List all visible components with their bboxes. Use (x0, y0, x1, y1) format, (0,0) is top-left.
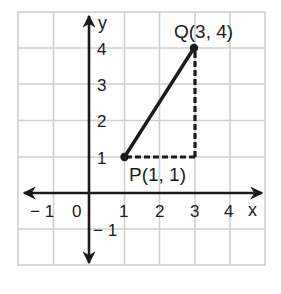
x-tick-neg1: − 1 (30, 202, 54, 221)
x-tick-4: 4 (224, 202, 233, 221)
x-tick-3: 3 (190, 202, 199, 221)
point-q (190, 44, 198, 52)
y-tick-3: 3 (97, 76, 106, 95)
grid (18, 12, 265, 265)
y-tick-neg1: − 1 (93, 221, 117, 240)
y-axis-label: y (98, 13, 107, 33)
origin-label: 0 (72, 202, 81, 221)
point-q-label: Q(3, 4) (174, 21, 233, 42)
y-tick-4: 4 (97, 40, 106, 59)
x-axis-label: x (248, 200, 257, 220)
x-tick-2: 2 (155, 202, 164, 221)
y-tick-2: 2 (97, 112, 106, 131)
point-p-label: P(1, 1) (129, 164, 186, 185)
x-tick-1: 1 (119, 202, 128, 221)
coordinate-plane: P(1, 1) Q(3, 4) y x 4 3 2 1 − 1 − 1 0 1 … (0, 0, 281, 294)
y-tick-1: 1 (97, 149, 106, 168)
point-p (120, 153, 128, 161)
